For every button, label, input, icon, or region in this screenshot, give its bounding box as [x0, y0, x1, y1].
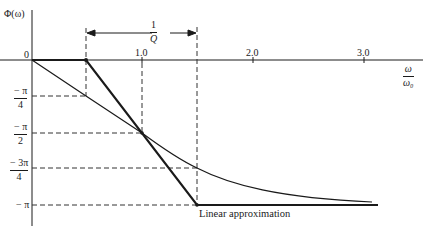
corner-dot [195, 203, 199, 207]
x-axis-num: ω [405, 64, 412, 75]
x-tick-label-2: 2.0 [246, 48, 259, 58]
phase-plot [0, 0, 423, 229]
y-tick-neg-pi-4: − π 4 [14, 86, 27, 110]
y-tick-den: 2 [18, 136, 23, 147]
bandwidth-arrow [87, 30, 196, 36]
x-tick-label-1: 1.0 [135, 48, 148, 58]
y-tick-den: 4 [18, 100, 23, 111]
y-tick-neg-3pi-4: − 3π 4 [10, 158, 28, 182]
breakpoint-dot [84, 58, 88, 62]
y-tick-den: 4 [17, 172, 22, 183]
guide-lines [32, 27, 197, 205]
bandwidth-label: 1 Q [150, 20, 157, 44]
x-axis-label: ω ω₀ [403, 64, 414, 88]
center-dot [140, 131, 144, 135]
y-tick-num: − π [14, 86, 27, 97]
y-tick-neg-pi-2: − π 2 [14, 122, 27, 146]
y-axis-label: Φ(ω) [4, 9, 25, 19]
exact-phase-curve [32, 60, 372, 202]
origin-label: 0 [24, 50, 29, 60]
x-tick-label-3: 3.0 [357, 48, 370, 58]
bandwidth-den: Q [150, 34, 157, 45]
x-axis-den: ω₀ [403, 78, 414, 89]
linear-approximation-label: Linear approximation [199, 209, 290, 220]
y-tick-neg-pi: − π [16, 200, 29, 210]
y-tick-num: − π [14, 122, 27, 133]
y-tick-num: − 3π [10, 158, 28, 169]
bandwidth-num: 1 [151, 20, 156, 31]
